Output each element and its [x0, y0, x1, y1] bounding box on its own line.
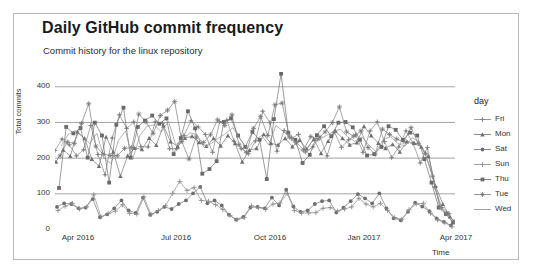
legend-item-sun[interactable]: Sun [473, 156, 531, 171]
legend-label: Sat [492, 144, 507, 153]
x-tick-label: Apr 2017 [421, 233, 491, 242]
x-tick-label: Oct 2016 [235, 233, 305, 242]
series-sun [56, 179, 455, 229]
legend-title: day [473, 96, 531, 106]
plus-dot-icon [473, 112, 492, 125]
legend-item-tue[interactable]: Tue [473, 186, 531, 201]
chart-screenshot: Daily GitHub commit frequency Commit his… [0, 0, 534, 275]
legend-label: Tue [492, 189, 509, 198]
filled-circle-icon [473, 142, 492, 155]
x-tick-label: Jan 2017 [329, 233, 399, 242]
series-canvas [55, 72, 455, 229]
y-tick-label: 100 [24, 188, 50, 197]
x-tick-label: Jul 2016 [141, 233, 211, 242]
legend-item-fri[interactable]: Fri [473, 111, 531, 126]
y-tick-label: 300 [24, 117, 50, 126]
legend: day FriMonSatSunThuTueWed [473, 96, 531, 216]
legend-label: Sun [492, 159, 509, 168]
legend-label: Mon [492, 129, 511, 138]
plot-area [55, 72, 455, 229]
legend-label: Fri [492, 114, 504, 123]
x-axis-title: Time [432, 248, 449, 257]
page-title: Daily GitHub commit frequency [42, 19, 283, 37]
legend-item-sat[interactable]: Sat [473, 141, 531, 156]
chart-subtitle: Commit history for the linux repository [43, 45, 202, 56]
y-tick-label: 0 [24, 224, 50, 233]
series-line [58, 182, 452, 227]
x-tick-label: Apr 2016 [43, 233, 113, 242]
y-tick-label: 400 [24, 81, 50, 90]
legend-item-wed[interactable]: Wed [473, 201, 531, 216]
y-tick-label: 200 [24, 153, 50, 162]
legend-item-thu[interactable]: Thu [473, 171, 531, 186]
line-icon [473, 202, 492, 215]
legend-item-mon[interactable]: Mon [473, 126, 531, 141]
legend-items: FriMonSatSunThuTueWed [473, 111, 531, 216]
triangle-icon [473, 127, 492, 140]
plus-icon [473, 157, 492, 170]
legend-label: Thu [492, 174, 509, 183]
y-axis-title: Total commits [14, 82, 23, 142]
filled-square-icon [473, 172, 492, 185]
star-plus-icon [473, 187, 492, 200]
legend-label: Wed [492, 204, 511, 213]
series-line [56, 126, 450, 217]
